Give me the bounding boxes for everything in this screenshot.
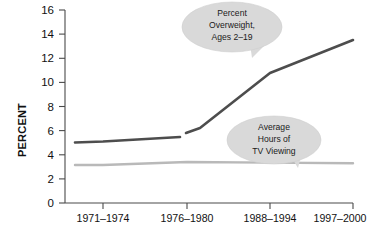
y-tick-label-4: 4 xyxy=(48,149,55,161)
series-line-tv-viewing xyxy=(75,162,353,165)
callout-tv-line2: Hours of xyxy=(258,134,291,144)
callout-overweight-line1: Percent xyxy=(217,8,247,18)
line-chart: 16 14 12 10 8 6 4 2 0 PERCENT 1971–1974 … xyxy=(0,0,380,243)
y-axis-title: PERCENT xyxy=(16,103,28,157)
chart-container: 16 14 12 10 8 6 4 2 0 PERCENT 1971–1974 … xyxy=(0,0,380,243)
x-tick-label-1: 1971–1974 xyxy=(76,212,129,224)
y-tick-label-8: 8 xyxy=(48,101,54,113)
y-axis-ticks xyxy=(59,10,65,203)
y-tick-label-12: 12 xyxy=(41,52,54,64)
callout-tv-line3: TV Viewing xyxy=(252,146,296,156)
x-axis-ticks xyxy=(103,203,353,209)
callout-tv-line1: Average xyxy=(258,122,290,132)
x-tick-label-2: 1976–1980 xyxy=(160,212,213,224)
callout-overweight-line3: Ages 2–19 xyxy=(211,32,252,42)
x-tick-label-4: 1997–2000 xyxy=(313,212,366,224)
x-tick-label-3: 1988–1994 xyxy=(243,212,296,224)
y-tick-label-6: 6 xyxy=(48,125,54,137)
y-tick-label-16: 16 xyxy=(41,4,54,16)
y-tick-label-10: 10 xyxy=(41,76,54,88)
callout-overweight: Percent Overweight, Ages 2–19 xyxy=(182,2,282,58)
series-line-overweight-segment-1 xyxy=(75,137,180,143)
y-tick-label-14: 14 xyxy=(41,28,54,40)
callout-tv-viewing: Average Hours of TV Viewing xyxy=(227,116,321,168)
y-tick-label-0: 0 xyxy=(48,197,54,209)
y-tick-label-2: 2 xyxy=(48,173,54,185)
callout-overweight-line2: Overweight, xyxy=(209,20,255,30)
